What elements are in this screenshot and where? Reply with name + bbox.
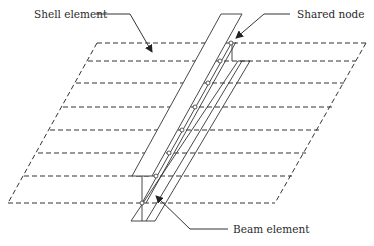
beam-element-label: Beam element bbox=[233, 223, 310, 235]
shell-beam-diagram: Shell element Shared node Beam element bbox=[0, 0, 374, 246]
leaders bbox=[96, 14, 290, 229]
shared-node-label: Shared node bbox=[297, 8, 365, 20]
shared-node-leader-arrow bbox=[236, 14, 290, 38]
shell-element-label: Shell element bbox=[34, 8, 108, 20]
